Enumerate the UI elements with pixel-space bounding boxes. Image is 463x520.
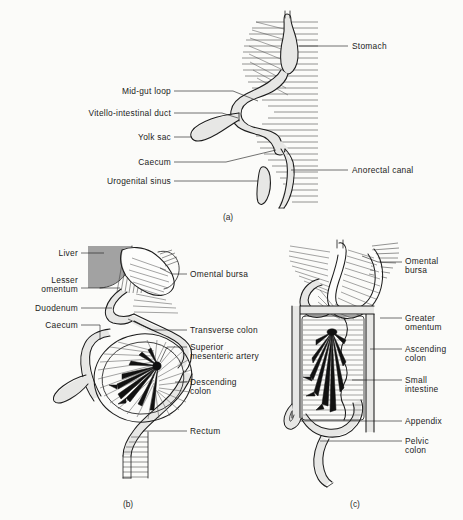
label-descending-colon-b-l2: colon: [190, 386, 211, 396]
figure-root: Stomach Anorectal canal Mid-gut loop Vit…: [0, 0, 463, 520]
descending-colon-fill-c: [292, 306, 300, 418]
label-appendix-c: Appendix: [405, 416, 442, 426]
label-duodenum-b: Duodenum: [35, 303, 78, 313]
ascending-colon-fill-c: [366, 314, 374, 432]
label-greater-omentum-c-l2: omentum: [405, 322, 442, 332]
caption-b: (b): [123, 499, 133, 509]
label-vitello-intestinal-duct-a: Vitello-intestinal duct: [89, 108, 172, 118]
label-pelvic-colon-c-l2: colon: [405, 445, 426, 455]
label-lesser-omentum-b-l2: omentum: [41, 284, 78, 294]
label-omental-bursa-c-l2: bursa: [405, 265, 427, 275]
label-caecum-a: Caecum: [138, 157, 171, 167]
label-anorectal-canal-a: Anorectal canal: [352, 165, 413, 175]
label-stomach-a: Stomach: [352, 41, 387, 51]
label-caecum-b: Caecum: [45, 320, 78, 330]
label-urogenital-sinus-a: Urogenital sinus: [107, 176, 171, 186]
gut-development-figure: Stomach Anorectal canal Mid-gut loop Vit…: [0, 0, 463, 520]
label-transverse-colon-b: Transverse colon: [190, 325, 258, 335]
caption-c: (c): [350, 499, 360, 509]
label-rectum-b: Rectum: [190, 426, 220, 436]
label-omental-bursa-b: Omental bursa: [190, 269, 248, 279]
label-liver-b: Liver: [59, 248, 78, 258]
figure-background: [0, 0, 463, 520]
label-mid-gut-loop-a: Mid-gut loop: [122, 86, 171, 96]
label-superior-mesenteric-artery-b-l2: mesenteric artery: [190, 351, 260, 361]
transverse-colon-fill-c: [300, 306, 374, 314]
label-small-intestine-c-l2: intestine: [405, 384, 439, 394]
label-ascending-colon-c-l2: colon: [405, 353, 426, 363]
caption-a: (a): [223, 212, 233, 222]
label-yolk-sac-a: Yolk sac: [138, 132, 171, 142]
